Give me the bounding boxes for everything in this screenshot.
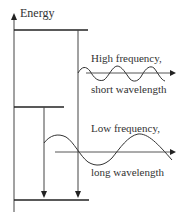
arrow-down-icon	[75, 191, 81, 198]
long-wavelength-label: long wavelength	[91, 166, 165, 178]
axis-label: Energy	[20, 6, 54, 20]
energy-level-diagram: Energy High frequency, short wavelength …	[0, 0, 191, 217]
low-frequency-label: Low frequency,	[91, 122, 160, 134]
transition-middle-to-ground	[41, 107, 47, 198]
low-frequency-wave	[44, 134, 176, 165]
wave-direction-arrow-icon	[170, 149, 176, 155]
axis-arrow-icon	[11, 13, 17, 20]
arrow-down-icon	[41, 191, 47, 198]
energy-axis	[11, 13, 17, 212]
short-wavelength-label: short wavelength	[91, 83, 167, 95]
high-frequency-label: High frequency,	[91, 52, 162, 64]
transition-upper-to-ground	[75, 30, 81, 198]
wave-direction-arrow-icon	[170, 70, 176, 76]
high-frequency-wave	[78, 66, 176, 81]
